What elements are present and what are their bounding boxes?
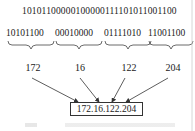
brace-icon-3 [105,41,151,49]
caption-faded [25,123,175,127]
brace-icon-1 [8,41,54,49]
arrow-icon-1 [32,78,78,102]
brace-icon-2 [56,41,102,49]
ip-address-text: 172.16.122.204 [71,104,142,115]
arrow-icon-2 [80,78,99,102]
octet-decimal-2: 16 [65,63,95,73]
ip-address-box: 172.16.122.204 [70,102,143,116]
octet-decimal-4: 204 [158,63,188,73]
octet-decimal-3: 122 [114,63,144,73]
brace-icon-4 [149,41,193,49]
arrow-icon-3 [112,78,125,102]
arrow-icon-4 [126,78,168,102]
brace-group [8,41,193,49]
octet-decimal-1: 172 [18,63,48,73]
